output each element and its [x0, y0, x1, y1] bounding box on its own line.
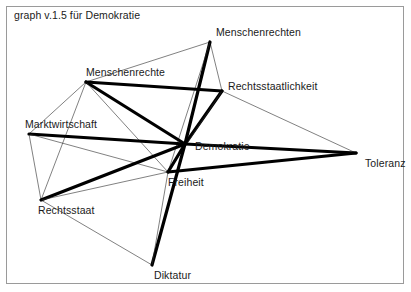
graph-edge	[29, 134, 185, 144]
node-label-demokratie: Demokratie	[195, 140, 250, 152]
graph-edge	[29, 134, 41, 200]
graph-edge	[86, 82, 222, 91]
node-label-marktwirtschaft: Marktwirtschaft	[25, 118, 97, 130]
node-label-diktatur: Diktatur	[154, 269, 191, 281]
graph-edge	[41, 82, 86, 200]
graph-node-freiheit[interactable]	[167, 171, 169, 173]
node-label-rechtsstaatlichkeit: Rechtsstaatlichkeit	[228, 80, 317, 92]
node-label-freiheit: Freiheit	[168, 176, 204, 188]
graph-edge	[86, 82, 185, 144]
graph-window: graph v.1.5 für Demokratie Menschenrecht…	[0, 0, 411, 292]
node-label-menschenrechte: Menschenrechte	[86, 66, 165, 78]
graph-edge	[152, 144, 185, 265]
graph-edge	[210, 42, 222, 91]
graph-edge	[41, 144, 185, 200]
graph-node-menschenrechte[interactable]	[85, 81, 87, 83]
graph-node-toleranz[interactable]	[355, 152, 357, 154]
graph-node-menschenrechten[interactable]	[209, 41, 211, 43]
node-label-menschenrechten: Menschenrechten	[216, 26, 301, 38]
graph-node-marktwirtschaft[interactable]	[28, 133, 30, 135]
graph-node-demokratie[interactable]	[184, 143, 186, 145]
node-label-rechtsstaat: Rechtsstaat	[38, 204, 95, 216]
node-label-toleranz: Toleranz	[365, 157, 406, 169]
page-title: graph v.1.5 für Demokratie	[14, 9, 140, 21]
edge-group	[29, 42, 356, 265]
graph-node-rechtsstaatlichkeit[interactable]	[221, 90, 223, 92]
graph-edge	[168, 42, 210, 172]
graph-node-rechtsstaat[interactable]	[40, 199, 42, 201]
node-group	[28, 41, 357, 266]
graph-edge	[168, 153, 356, 172]
graph-node-diktatur[interactable]	[151, 264, 153, 266]
